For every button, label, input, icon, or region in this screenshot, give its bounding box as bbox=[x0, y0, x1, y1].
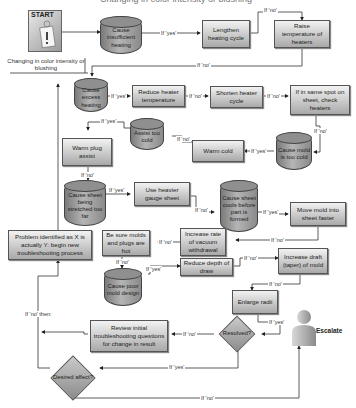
problem-identified-node: Problem identified as X is actually Y: b… bbox=[8, 230, 92, 260]
be-sure-molds-hot-node: Be sure molds and plugs are hot bbox=[102, 230, 150, 256]
edge-label-no: If 'no' bbox=[270, 237, 285, 243]
raise-temperature-heaters-node: Raise temperature of heaters bbox=[274, 20, 330, 48]
person-icon bbox=[290, 308, 318, 348]
edge-label-no: If 'no' bbox=[176, 136, 191, 142]
increase-draft-node: Increase draft (taper) of mold bbox=[278, 248, 328, 274]
cause-sheet-cools-node: Cause sheet cools before part is formed bbox=[220, 180, 258, 232]
same-spot-check-heaters-node: If in same spot on sheet, check heaters bbox=[290, 85, 350, 115]
edge-label-no-then: If 'no' then: bbox=[24, 311, 53, 317]
edge-label-yes: If 'yes' bbox=[145, 266, 162, 272]
edge-label-no: If 'no' bbox=[158, 239, 173, 245]
cause-sheet-stretched-node: Cause sheet being stretched too far bbox=[64, 180, 106, 226]
warm-plug-assist-node: Warm plug assist bbox=[62, 138, 112, 166]
edge-label-no: If 'no' bbox=[243, 255, 258, 261]
enlarge-radii-node: Enlarge radii bbox=[232, 290, 278, 314]
cause-poor-mold-design-node: Cause poor mold design bbox=[104, 268, 142, 306]
cause-excess-heating-node: Cause excess heating bbox=[74, 78, 108, 112]
edge-label-no: If 'no' bbox=[188, 93, 203, 99]
edge-label-no: If 'no' bbox=[268, 281, 283, 287]
escalate-label: Escalate bbox=[316, 327, 342, 334]
edge-label-no: If 'no' bbox=[80, 172, 95, 178]
edge-label-no: If 'no' bbox=[115, 259, 130, 265]
edge-label-yes: If 'yes' bbox=[250, 148, 267, 154]
edge-label-no: If 'no' bbox=[200, 395, 215, 401]
start-caption: Changing in color intensity or blushing bbox=[4, 58, 88, 72]
edge-label-no: If 'no' bbox=[266, 93, 281, 99]
edge-label-no: If 'no' bbox=[194, 207, 209, 213]
edge-label-no: If 'no' bbox=[182, 331, 197, 337]
reduce-heater-temperature-node: Reduce heater temperature bbox=[132, 85, 185, 107]
edge-label-no: If 'no' bbox=[263, 7, 278, 13]
cause-mold-too-cold-node: Cause mold is too cold bbox=[276, 132, 312, 170]
resolved-decision: Resolved? bbox=[210, 318, 264, 350]
start-node: START bbox=[28, 10, 62, 52]
warm-cold-node: Warm cold bbox=[192, 140, 244, 162]
move-mold-faster-node: Move mold into sheet faster bbox=[290, 202, 346, 226]
edge-label-yes: If 'yes' bbox=[108, 187, 125, 193]
desired-affect-decision: Desired affect? bbox=[48, 356, 98, 400]
assist-too-cold-node: Assist too cold bbox=[130, 118, 164, 150]
shorten-heater-cycle-node: Shorten heater cycle bbox=[210, 86, 263, 108]
edge-label-no: If 'no' bbox=[196, 62, 211, 68]
edge-label-yes: If 'yes' bbox=[168, 364, 185, 370]
edge-label-yes: If 'yes' bbox=[268, 319, 285, 325]
warning-tag-icon bbox=[29, 11, 63, 53]
review-initial-node: Review initial troubleshooting questions… bbox=[90, 320, 168, 352]
cause-insufficient-heating-node: Cause insufficient heating bbox=[100, 16, 142, 54]
edge-label-yes: If 'yes' bbox=[262, 209, 279, 215]
use-heavier-gauge-node: Use heavier gauge sheet bbox=[134, 182, 190, 206]
reduce-depth-of-draw-node: Reduce depth of draw bbox=[180, 258, 233, 276]
increase-vacuum-rate-node: Increase rate of vacuum withdrawal bbox=[180, 228, 226, 256]
edge-label-yes: If 'yes' bbox=[160, 30, 177, 36]
lengthen-heating-cycle-node: Lengthen heating cycle bbox=[202, 20, 250, 48]
edge-label-yes: If 'yes' bbox=[100, 118, 117, 124]
edge-label-yes: If 'yes' bbox=[110, 93, 127, 99]
edge-label-no: If 'no' bbox=[313, 128, 328, 134]
